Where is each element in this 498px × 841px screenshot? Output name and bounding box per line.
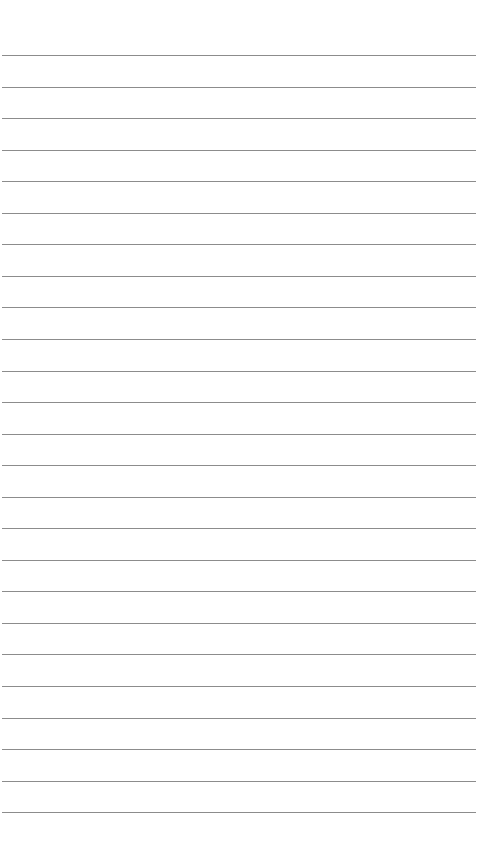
ruled-line <box>2 402 476 403</box>
ruled-line <box>2 781 476 782</box>
ruled-line <box>2 87 476 88</box>
ruled-line <box>2 339 476 340</box>
ruled-line <box>2 181 476 182</box>
ruled-line <box>2 55 476 56</box>
ruled-line <box>2 718 476 719</box>
ruled-line <box>2 371 476 372</box>
ruled-line <box>2 497 476 498</box>
ruled-line <box>2 654 476 655</box>
ruled-line <box>2 465 476 466</box>
ruled-line <box>2 150 476 151</box>
ruled-line <box>2 213 476 214</box>
ruled-line <box>2 118 476 119</box>
ruled-line <box>2 749 476 750</box>
lined-paper-page <box>0 0 498 841</box>
ruled-line <box>2 560 476 561</box>
ruled-line <box>2 528 476 529</box>
ruled-line <box>2 686 476 687</box>
ruled-line <box>2 307 476 308</box>
ruled-line <box>2 276 476 277</box>
ruled-line <box>2 434 476 435</box>
ruled-line <box>2 591 476 592</box>
ruled-line <box>2 812 476 813</box>
ruled-line <box>2 244 476 245</box>
ruled-line <box>2 623 476 624</box>
